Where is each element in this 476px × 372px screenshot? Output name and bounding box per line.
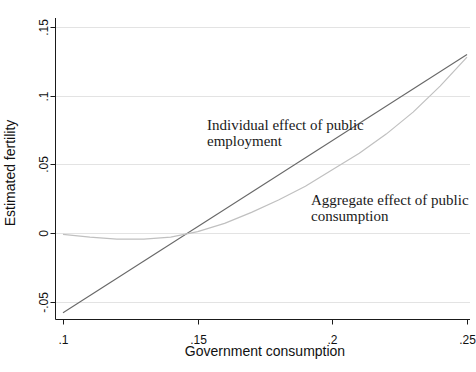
x-tick-label: .25	[459, 333, 476, 347]
annotation-aggregate-effect: Aggregate effect of public consumption	[311, 193, 469, 224]
chart-canvas: -.050.05.1.15.1.15.2.25 Government consu…	[0, 0, 476, 372]
annotation-line: Individual effect of public	[207, 118, 364, 134]
y-tick-label: .1	[37, 91, 51, 101]
x-axis-title: Government consumption	[185, 343, 345, 359]
axes	[51, 18, 471, 325]
y-tick-label: 0	[37, 230, 51, 237]
annotation-line: Aggregate effect of public	[311, 193, 469, 209]
y-tick-label: .05	[37, 156, 51, 173]
fertility-chart: -.050.05.1.15.1.15.2.25 Government consu…	[0, 0, 476, 372]
annotation-line: employment	[207, 134, 364, 150]
y-tick-label: .15	[37, 19, 51, 36]
tick-labels: -.050.05.1.15.1.15.2.25	[37, 19, 476, 347]
annotation-individual-effect: Individual effect of public employment	[207, 118, 364, 149]
y-axis-title: Estimated fertility	[2, 120, 18, 227]
series-lines	[63, 55, 467, 313]
y-tick-label: -.05	[37, 292, 51, 313]
annotation-line: consumption	[311, 209, 469, 225]
series-line-individual	[63, 55, 467, 313]
x-tick-label: .1	[58, 333, 68, 347]
gridlines	[56, 28, 471, 303]
